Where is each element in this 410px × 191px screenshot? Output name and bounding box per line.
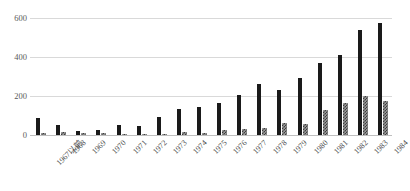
bar-series-1 [378, 23, 382, 135]
bar-series-2 [323, 110, 328, 135]
bar-series-1 [277, 90, 281, 135]
bar-series-2 [363, 96, 368, 135]
x-axis-tick-label: 1983 [373, 139, 390, 156]
bar-series-2 [282, 123, 287, 135]
bar-group [277, 18, 287, 135]
x-axis-tick-label: 1980 [312, 139, 329, 156]
x-axis-tick-label: 1979 [292, 139, 309, 156]
bar-series-2 [343, 103, 348, 135]
bars-layer [30, 18, 392, 135]
x-axis-tick-label: 1970 [111, 139, 128, 156]
bar-series-1 [177, 109, 181, 135]
y-axis: 0200400600 [0, 18, 27, 135]
bar-group [217, 18, 227, 135]
bar-group [378, 18, 388, 135]
x-axis-tick-label: 1969 [91, 139, 108, 156]
bar-group [137, 18, 147, 135]
bar-group [197, 18, 207, 135]
y-axis-tick-label: 400 [1, 53, 27, 62]
bar-series-1 [157, 117, 161, 135]
bar-series-2 [262, 128, 267, 135]
x-axis-tick-label: 1976 [232, 139, 249, 156]
x-axis-tick-label: 1972 [151, 139, 168, 156]
bar-group [96, 18, 106, 135]
bar-series-1 [237, 95, 241, 135]
bar-group [157, 18, 167, 135]
y-axis-tick-label: 0 [1, 131, 27, 140]
x-axis-tick-label: 1978 [272, 139, 289, 156]
y-axis-tick-label: 200 [1, 92, 27, 101]
bar-series-2 [383, 101, 388, 135]
bar-series-1 [338, 55, 342, 135]
bar-group [257, 18, 267, 135]
x-axis-tick-label: 1981 [332, 139, 349, 156]
bar-group [358, 18, 368, 135]
bar-group [318, 18, 328, 135]
bar-series-2 [303, 124, 308, 135]
bar-series-1 [298, 78, 302, 135]
x-axis-tick-label: 1971 [131, 139, 148, 156]
bar-series-1 [257, 84, 261, 135]
bar-series-1 [137, 126, 141, 135]
bar-group [36, 18, 46, 135]
bar-group [338, 18, 348, 135]
bar-group [76, 18, 86, 135]
bar-series-1 [358, 30, 362, 135]
x-axis-tick-label: 1984 [393, 139, 410, 156]
bar-series-1 [117, 125, 121, 135]
x-axis-tick-label: 1975 [212, 139, 229, 156]
x-axis-tick-label: 1977 [252, 139, 269, 156]
x-axis-tick-label: 1982 [352, 139, 369, 156]
bar-group [177, 18, 187, 135]
x-axis-tick-label: 1974 [192, 139, 209, 156]
plot-area [30, 18, 392, 135]
x-axis: 1967以前1968196919701971197219731974197519… [30, 135, 392, 191]
bar-series-1 [217, 103, 221, 135]
bar-group [298, 18, 308, 135]
bar-group [117, 18, 127, 135]
bar-series-1 [56, 125, 60, 135]
bar-series-1 [36, 118, 40, 135]
bar-group [56, 18, 66, 135]
x-axis-tick-label: 1973 [171, 139, 188, 156]
bar-series-1 [197, 107, 201, 135]
bar-series-1 [318, 63, 322, 135]
y-axis-tick-label: 600 [1, 14, 27, 23]
bar-group [237, 18, 247, 135]
